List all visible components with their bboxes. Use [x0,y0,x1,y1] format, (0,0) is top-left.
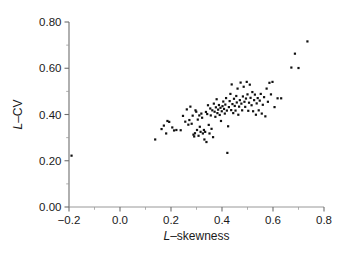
data-point [204,131,206,133]
data-point [234,109,236,111]
data-point [226,109,228,111]
x-tick-label: 0.6 [265,214,281,226]
data-point [180,129,182,131]
data-point [222,100,224,102]
y-tick-labels: 0.000.200.400.600.80 [39,16,61,213]
data-point [238,106,240,108]
data-point [267,101,269,103]
x-axis: −0.20.00.20.40.60.8 [58,207,332,226]
data-point [214,116,216,118]
chart-canvas: 0.000.200.400.600.80 −0.20.00.20.40.60.8… [0,0,340,262]
data-point [261,112,263,114]
data-point [70,155,72,157]
data-point [245,97,247,99]
data-point [236,88,238,90]
data-point [205,141,207,143]
data-point [209,107,211,109]
data-point [262,104,264,106]
data-point [215,106,217,108]
data-point [247,110,249,112]
data-point [260,93,262,95]
data-point [234,105,236,107]
data-point [208,132,210,134]
data-point [154,138,156,140]
y-axis-title: L–CV [11,99,25,129]
data-point [255,114,257,116]
data-point [237,114,239,116]
data-point [186,108,188,110]
data-point [214,111,216,113]
y-tick-label: 0.00 [39,201,61,213]
data-point [220,120,222,122]
data-point [212,136,214,138]
data-point [224,103,226,105]
data-point [280,97,282,99]
x-tick-label: 0.0 [112,214,128,226]
data-point [200,112,202,114]
data-point [257,97,259,99]
data-point [182,115,184,117]
data-point [273,106,275,108]
data-point [244,106,246,108]
data-point [191,123,193,125]
data-point [266,88,268,90]
data-point [206,113,208,115]
data-point [205,111,207,113]
data-point [243,86,245,88]
data-point [203,138,205,140]
data-point [226,152,228,154]
data-point [231,103,233,105]
x-tick-label: 0.2 [163,214,179,226]
data-point [218,104,220,106]
data-point [199,126,201,128]
data-point [248,102,250,104]
data-point [223,108,225,110]
data-point [306,40,308,42]
y-tick-marks [65,22,70,207]
data-point [242,95,244,97]
data-point [264,115,266,117]
y-tick-label: 0.40 [39,109,61,121]
data-point [235,95,237,97]
data-point [263,96,265,98]
data-point [240,81,242,83]
data-point [229,100,231,102]
data-point [217,109,219,111]
x-tick-label: −0.2 [58,214,81,226]
data-point [252,110,254,112]
data-point [198,114,200,116]
y-tick-label: 0.80 [39,16,61,28]
data-point [194,132,196,134]
data-point [254,94,256,96]
data-point [196,129,198,131]
data-point [239,99,241,101]
data-point [271,81,273,83]
data-point [230,109,232,111]
data-point [221,105,223,107]
x-tick-labels: −0.20.00.20.40.60.8 [58,214,332,226]
data-point [175,129,177,131]
data-point [165,132,167,134]
data-point [163,125,165,127]
data-point [171,126,173,128]
data-point [188,119,190,121]
y-tick-label: 0.20 [39,155,61,167]
x-axis-title: L–skewness [163,229,229,243]
data-point [219,107,221,109]
y-axis: 0.000.200.400.600.80 [39,16,69,213]
data-point [193,135,195,137]
data-point [231,83,233,85]
data-point [199,131,201,133]
data-point [251,91,253,93]
data-point [232,112,234,114]
x-tick-label: 0.8 [316,214,332,226]
y-tick-label: 0.60 [39,62,61,74]
data-point [270,93,272,95]
data-point [249,84,251,86]
data-point [250,104,252,106]
data-point [168,121,170,123]
data-point [259,100,261,102]
data-point [216,112,218,114]
data-point [195,111,197,113]
data-point [210,128,212,130]
